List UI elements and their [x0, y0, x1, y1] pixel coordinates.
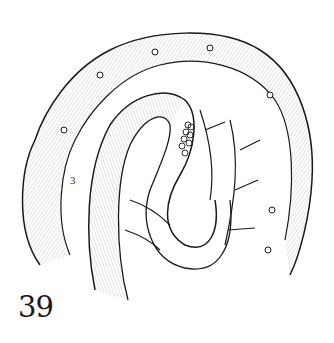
structure-label: 3 [70, 174, 76, 186]
vessels [125, 110, 260, 250]
beaded-segment [179, 122, 194, 156]
figure-number: 39 [18, 293, 53, 322]
figure-canvas: 3 39 [0, 0, 334, 343]
